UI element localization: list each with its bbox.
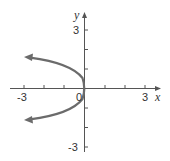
x-axis-label: x bbox=[154, 90, 161, 104]
graph: -3 0 3 x y 3 -3 bbox=[0, 0, 170, 161]
y-tick-label-3: 3 bbox=[73, 24, 79, 36]
x-tick-label-neg3: -3 bbox=[17, 91, 27, 103]
x-tick-label-3: 3 bbox=[142, 91, 148, 103]
y-axis-arrow-icon bbox=[82, 12, 87, 18]
y-axis-label: y bbox=[73, 8, 80, 22]
y-tick-label-neg3: -3 bbox=[68, 141, 78, 153]
curve-arrow-bottom-icon bbox=[24, 116, 33, 124]
curve-arrow-top-icon bbox=[24, 54, 33, 62]
x-tick-label-0: 0 bbox=[76, 91, 82, 103]
